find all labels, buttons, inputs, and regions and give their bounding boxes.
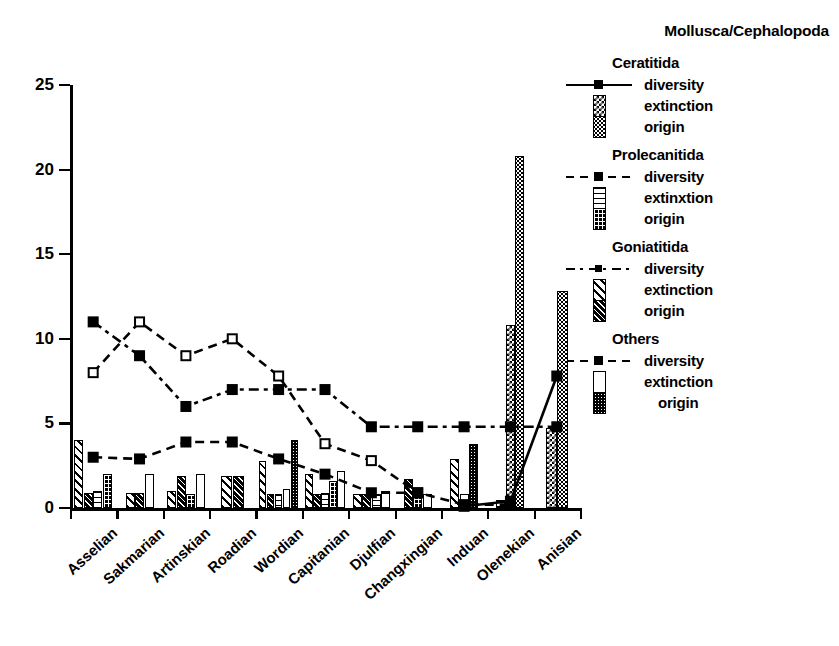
legend-group-title: Others <box>560 330 835 347</box>
plot-area: 0510152025 AsselianSakmarianArtinskianRo… <box>70 85 580 508</box>
legend-group-title: Prolecanitida <box>560 146 835 163</box>
data-point-marker <box>181 402 190 411</box>
legend-item-label: origin <box>638 210 684 227</box>
y-tick <box>59 422 70 424</box>
legend-item-label: diversity <box>638 352 704 369</box>
data-point-marker <box>321 439 330 448</box>
legend-group-title: Goniatitida <box>560 238 835 255</box>
data-point-marker <box>228 438 237 447</box>
x-tick <box>302 508 304 519</box>
data-point-marker <box>89 368 98 377</box>
data-point-marker <box>413 422 422 431</box>
legend-item-label: extinction <box>638 97 713 114</box>
data-point-marker <box>321 385 330 394</box>
legend-item[interactable]: diversity <box>560 258 835 279</box>
legend: Mollusca/Cephalopoda Ceratitidadiversity… <box>560 22 835 422</box>
legend-item-label: extinction <box>638 281 713 298</box>
legend-item[interactable]: diversity <box>560 74 835 95</box>
legend-item[interactable]: origin <box>560 116 835 137</box>
x-tick <box>580 508 582 519</box>
data-point-marker <box>89 317 98 326</box>
data-line <box>93 442 510 505</box>
legend-group-others: Othersdiversityextinctionorigin <box>560 330 835 413</box>
y-tick <box>59 253 70 255</box>
legend-item-label: origin <box>638 394 698 411</box>
data-point-marker <box>135 317 144 326</box>
y-tick <box>59 169 70 171</box>
y-tick <box>59 84 70 86</box>
data-point-marker <box>274 372 283 381</box>
legend-item-label: origin <box>638 302 684 319</box>
legend-title: Mollusca/Cephalopoda <box>560 22 835 40</box>
x-tick <box>255 508 257 519</box>
legend-item[interactable]: origin <box>560 392 835 413</box>
data-point-marker <box>321 470 330 479</box>
legend-item-label: diversity <box>638 76 704 93</box>
x-tick <box>441 508 443 519</box>
legend-item-label: diversity <box>638 168 704 185</box>
legend-item[interactable]: extinction <box>560 371 835 392</box>
y-tick-label: 0 <box>45 498 54 518</box>
y-tick <box>59 338 70 340</box>
figure: Mollusca/Cephalopoda Ceratitidadiversity… <box>0 0 839 646</box>
x-tick <box>209 508 211 519</box>
legend-item[interactable]: extinction <box>560 279 835 300</box>
x-tick <box>116 508 118 519</box>
legend-item[interactable]: origin <box>560 300 835 321</box>
legend-item[interactable]: origin <box>560 208 835 229</box>
data-point-marker <box>228 334 237 343</box>
data-point-marker <box>274 454 283 463</box>
legend-item[interactable]: extinxtion <box>560 187 835 208</box>
legend-item-label: diversity <box>638 260 704 277</box>
y-tick-label: 5 <box>45 413 54 433</box>
legend-item-label: extinction <box>638 373 713 390</box>
legend-groups: CeratitidadiversityextinctionoriginProle… <box>560 54 835 413</box>
y-tick <box>59 507 70 509</box>
x-tick <box>487 508 489 519</box>
x-tick-label: Roadian <box>204 524 259 576</box>
data-point-marker <box>506 500 515 509</box>
legend-group-goniatitida: Goniatitidadiversityextinctionorigin <box>560 238 835 321</box>
y-tick-label: 20 <box>35 160 54 180</box>
data-point-marker <box>274 385 283 394</box>
data-point-marker <box>506 422 515 431</box>
legend-item[interactable]: diversity <box>560 166 835 187</box>
x-tick <box>395 508 397 519</box>
x-tick <box>348 508 350 519</box>
y-tick-label: 25 <box>35 75 54 95</box>
data-point-marker <box>552 372 561 381</box>
data-point-marker <box>552 422 561 431</box>
y-tick-label: 15 <box>35 244 54 264</box>
legend-item-label: origin <box>638 118 684 135</box>
line-group <box>70 85 580 508</box>
data-point-marker <box>89 453 98 462</box>
x-tick <box>70 508 72 519</box>
data-point-marker <box>460 422 469 431</box>
data-point-marker <box>367 456 376 465</box>
legend-item[interactable]: extinction <box>560 95 835 116</box>
y-tick-label: 10 <box>35 329 54 349</box>
legend-item[interactable]: diversity <box>560 350 835 371</box>
data-point-marker <box>135 351 144 360</box>
data-point-marker <box>181 351 190 360</box>
data-point-marker <box>460 500 469 509</box>
data-line <box>464 376 557 506</box>
legend-item-label: extinxtion <box>638 189 713 206</box>
data-line <box>93 322 418 493</box>
data-point-marker <box>228 385 237 394</box>
data-point-marker <box>181 438 190 447</box>
legend-group-ceratitida: Ceratitidadiversityextinctionorigin <box>560 54 835 137</box>
data-point-marker <box>413 488 422 497</box>
x-tick <box>534 508 536 519</box>
legend-group-title: Ceratitida <box>560 54 835 71</box>
legend-group-prolecanitida: Prolecanitidadiversityextinxtionorigin <box>560 146 835 229</box>
x-tick-label: Anisian <box>533 524 585 573</box>
x-tick <box>163 508 165 519</box>
data-point-marker <box>135 454 144 463</box>
data-point-marker <box>367 488 376 497</box>
data-point-marker <box>367 422 376 431</box>
